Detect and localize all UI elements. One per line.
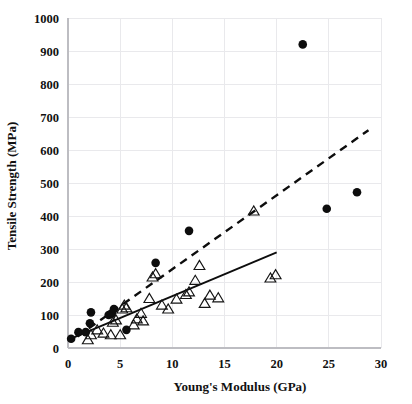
solid-trendline — [72, 252, 276, 338]
x-tick-label: 5 — [117, 357, 123, 371]
x-tick-label: 15 — [218, 357, 231, 371]
y-tick-label: 600 — [40, 144, 59, 158]
x-axis-title: Young's Modulus (GPa) — [174, 379, 307, 394]
data-point-triangle — [204, 290, 215, 299]
y-tick-label: 1000 — [34, 12, 59, 26]
data-point-circle — [122, 326, 131, 335]
y-tick-label: 200 — [40, 276, 59, 290]
y-tick-labels: 01002003004005006007008009001000 — [34, 12, 59, 356]
chart-figure: 01002003004005006007008009001000 0510152… — [0, 0, 412, 404]
y-tick-label: 800 — [40, 78, 59, 92]
y-tick-label: 100 — [40, 309, 59, 323]
y-tick-label: 500 — [40, 177, 59, 191]
data-point-circle — [67, 334, 76, 343]
x-tick-label: 25 — [323, 357, 336, 371]
y-tick-label: 900 — [40, 45, 59, 59]
data-point-circle — [298, 40, 307, 49]
data-point-circle — [87, 308, 96, 317]
gridlines — [68, 18, 381, 348]
data-point-triangle — [194, 260, 205, 269]
data-point-circle — [353, 188, 362, 197]
y-axis-title: Tensile Strength (MPa) — [4, 122, 19, 251]
data-point-circle — [110, 305, 119, 314]
y-tick-label: 300 — [40, 243, 59, 257]
x-tick-label: 0 — [65, 357, 71, 371]
data-point-circle — [151, 259, 160, 268]
x-tick-label: 30 — [375, 357, 388, 371]
x-tick-label: 20 — [270, 357, 283, 371]
data-point-triangle — [190, 275, 201, 284]
data-point-circle — [81, 328, 90, 337]
y-tick-label: 400 — [40, 210, 59, 224]
scatter-plot: 01002003004005006007008009001000 0510152… — [0, 0, 412, 404]
data-point-triangle — [144, 293, 155, 302]
data-points-triangles — [82, 206, 281, 344]
y-tick-label: 700 — [40, 111, 59, 125]
x-tick-label: 10 — [166, 357, 179, 371]
y-tick-label: 0 — [53, 342, 59, 356]
x-tick-labels: 051015202530 — [65, 357, 387, 371]
data-point-circle — [185, 227, 194, 236]
data-point-circle — [86, 319, 95, 328]
data-point-triangle — [270, 270, 281, 279]
data-point-circle — [322, 204, 331, 213]
